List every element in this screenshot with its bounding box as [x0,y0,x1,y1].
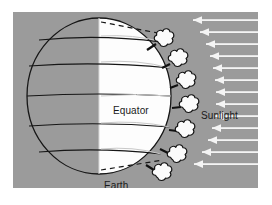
sunlight-ray [210,52,258,60]
globe-icon [27,18,171,174]
cloud-icon [176,71,196,89]
sunlight-ray [213,64,258,72]
cloud-marker [160,145,187,163]
cloud-icon [168,49,188,67]
sunlight-ray [212,124,258,132]
sunlight-ray [194,160,258,168]
cloud-icon [175,120,195,138]
sunlight-ray [216,100,258,108]
diagram-panel: Equator Sunlight Earth [13,12,258,188]
cloud-icon [152,163,172,181]
caption-strip [13,191,173,198]
sunlight-ray [215,76,258,84]
cloud-marker [170,71,196,89]
sunlight-ray [206,40,258,48]
sunlight-ray [202,148,258,156]
label-equator: Equator [113,105,149,116]
cloud-stem [172,107,181,108]
cloud-stem [170,85,178,88]
cloud-icon [154,29,174,47]
sunlight-ray [193,16,258,24]
earth-sunlight-diagram [13,12,258,188]
label-sunlight: Sunlight [201,110,238,121]
cloud-stem [160,149,168,153]
sunlight-rays [193,16,258,168]
cloud-icon [179,95,199,113]
cloud-marker [162,49,188,68]
sunlight-ray [200,28,258,36]
sunlight-ray [216,88,258,96]
sunlight-ray [208,136,258,144]
cloud-marker [172,95,199,113]
cloud-marker [169,120,195,138]
cloud-icon [167,145,187,163]
cloud-stem [146,165,154,170]
cloud-marker [146,163,172,181]
figure-screenshot: Equator Sunlight Earth [0,0,272,205]
label-earth: Earth [104,180,128,188]
